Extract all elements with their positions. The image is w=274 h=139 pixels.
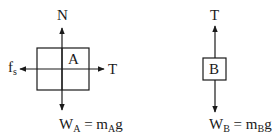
tension-b-label: T bbox=[210, 8, 219, 23]
weight-b-equation: WB = mBg bbox=[209, 117, 272, 134]
tension-a-label: T bbox=[108, 62, 117, 77]
block-a-label: A bbox=[68, 52, 79, 67]
block-b-label: B bbox=[209, 62, 219, 77]
weight-a-equation: WA = mAg bbox=[59, 117, 123, 134]
normal-force-label: N bbox=[57, 8, 68, 23]
friction-label: fs bbox=[8, 60, 17, 77]
